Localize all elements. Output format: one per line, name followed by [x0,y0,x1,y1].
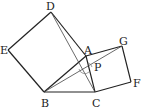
segment-BE [8,50,44,92]
geometry-figure: D E B C A P G F [0,0,143,110]
segment-AB [44,56,86,92]
label-B: B [41,97,49,110]
label-C: C [92,97,100,110]
segment-FC [95,82,131,92]
label-E: E [0,44,8,57]
label-A: A [83,44,93,57]
segment-GF [122,46,131,82]
label-P: P [94,61,102,74]
segment-ED [8,12,51,50]
label-G: G [119,35,128,48]
segment-DA [51,12,86,56]
label-F: F [133,77,141,90]
label-D: D [46,0,55,13]
